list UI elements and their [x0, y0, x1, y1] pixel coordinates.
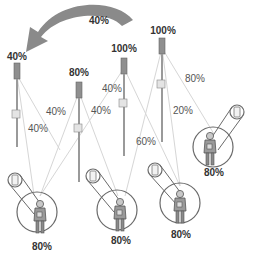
pole-1-label: 40%	[7, 51, 27, 62]
arrow-label: 40%	[89, 15, 109, 26]
pole-3	[119, 58, 127, 156]
user-4	[193, 105, 244, 167]
pole-2	[74, 82, 82, 182]
link-label-7: 80%	[185, 73, 205, 84]
user-3	[148, 163, 200, 223]
pole-4-label: 100%	[150, 25, 176, 36]
link-label-3: 40%	[91, 105, 111, 116]
user-1-label: 80%	[32, 241, 52, 252]
pole-3-label: 100%	[111, 43, 137, 54]
pole-2-label: 80%	[69, 67, 89, 78]
pole-1	[12, 63, 20, 147]
pole-4	[157, 38, 165, 142]
link-label-1: 40%	[46, 106, 66, 117]
user-4-label: 80%	[204, 167, 224, 178]
link-label-6: 60%	[136, 136, 156, 147]
link-label-8: 20%	[173, 105, 193, 116]
link-label-2: 40%	[28, 123, 48, 134]
link-label-4: 40%	[102, 83, 122, 94]
user-3-label: 80%	[171, 229, 191, 240]
user-2-label: 80%	[111, 235, 131, 246]
